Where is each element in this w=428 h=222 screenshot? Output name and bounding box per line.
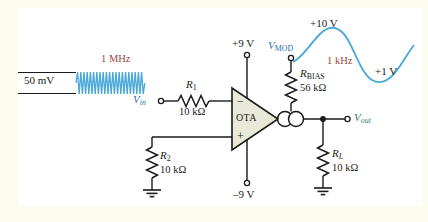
rl-subscript: L xyxy=(339,152,343,161)
vmod-label: VMOD xyxy=(268,40,293,53)
r2-subscript: 2 xyxy=(167,154,171,163)
current-source-symbol xyxy=(278,112,304,127)
vout-terminal xyxy=(345,116,350,121)
rl-value: 10 kΩ xyxy=(332,163,358,174)
r1-value: 10 kΩ xyxy=(179,107,205,118)
ground-symbol-rl xyxy=(314,188,332,195)
vin-terminal xyxy=(158,98,163,103)
vmod-terminal xyxy=(288,55,293,60)
pos-supply-label: +9 V xyxy=(232,38,254,49)
vin-subscript: in xyxy=(140,98,146,107)
ground-symbol-r2 xyxy=(143,190,161,197)
vout-subscript: out xyxy=(361,116,371,125)
rbias-symbol: R xyxy=(300,67,307,79)
resistor-r1-symbol xyxy=(178,96,209,107)
r2-symbol: R xyxy=(160,149,167,161)
resistor-rl-symbol xyxy=(318,145,329,176)
rbias-label: RBIAS xyxy=(300,68,325,81)
rbias-subscript: BIAS xyxy=(307,72,325,81)
ota-minus-input-label: − xyxy=(237,95,244,107)
mod-frequency-label: 1 kHz xyxy=(327,56,352,67)
r2-value: 10 kΩ xyxy=(160,165,186,176)
neg-supply-terminal xyxy=(244,180,249,185)
rl-symbol: R xyxy=(332,147,339,159)
vout-symbol: V xyxy=(354,111,361,123)
figure-canvas: 50 mV 1 MHz Vin R1 10 kΩ R2 10 kΩ +9 V –… xyxy=(0,0,428,222)
circuit-schematic-svg xyxy=(0,0,428,222)
mod-peak-label: +10 V xyxy=(310,18,338,29)
vin-symbol: V xyxy=(133,93,140,105)
vout-label: Vout xyxy=(354,112,371,125)
r2-label: R2 xyxy=(160,150,171,163)
vmod-subscript: MOD xyxy=(275,44,293,53)
mod-trough-label: +1 V xyxy=(375,66,397,77)
vin-label: Vin xyxy=(133,94,146,107)
input-frequency-label: 1 MHz xyxy=(101,54,130,65)
input-carrier-waveform xyxy=(76,72,145,94)
ota-label: OTA xyxy=(236,113,257,123)
pos-supply-terminal xyxy=(244,52,249,57)
r1-symbol: R xyxy=(186,78,193,90)
rbias-value: 56 kΩ xyxy=(300,83,326,94)
neg-supply-label: –9 V xyxy=(233,189,255,200)
input-amplitude-label: 50 mV xyxy=(24,75,54,86)
ota-plus-input-label: + xyxy=(237,130,244,142)
vmod-symbol: V xyxy=(268,39,275,51)
r1-subscript: 1 xyxy=(193,83,197,92)
r1-label: R1 xyxy=(186,79,197,92)
rl-label: RL xyxy=(332,148,343,161)
resistor-r2-symbol xyxy=(147,147,158,178)
resistor-rbias-symbol xyxy=(286,72,297,103)
